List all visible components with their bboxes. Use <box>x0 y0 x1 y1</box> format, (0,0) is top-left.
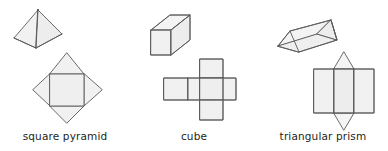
square-pyramid-solid <box>14 9 62 48</box>
shapes-canvas <box>0 0 388 151</box>
shape-label-triangular-prism: triangular prism <box>258 130 388 143</box>
geometry-figure: square pyramid cube triangular prism <box>0 0 388 151</box>
cube-net <box>164 59 236 120</box>
square-pyramid-net <box>33 53 102 123</box>
shape-label-square-pyramid: square pyramid <box>0 130 130 143</box>
triangular-prism-net <box>314 52 374 130</box>
shape-label-cube: cube <box>130 130 258 143</box>
triangular-prism-solid <box>278 20 337 52</box>
cube-solid <box>151 15 190 55</box>
